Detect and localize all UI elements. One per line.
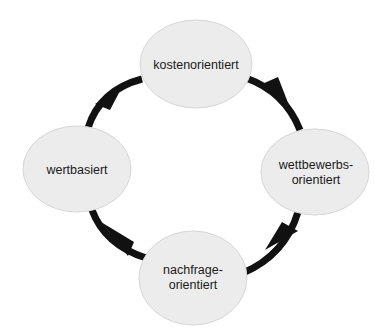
arrowhead-icon (262, 77, 292, 113)
node-label-wertbasiert: wertbasiert (46, 163, 107, 178)
arrowhead-icon (101, 222, 134, 256)
node-label-nachfrageorientiert: nachfrage- orientiert (163, 263, 223, 293)
node-label-kostenorientiert: kostenorientiert (153, 58, 238, 73)
node-label-wettbewerbsorientiert: wettbewerbs- orientiert (279, 158, 353, 188)
pricing-cycle-diagram: kostenorientiert wettbewerbs- orientiert… (0, 0, 389, 335)
